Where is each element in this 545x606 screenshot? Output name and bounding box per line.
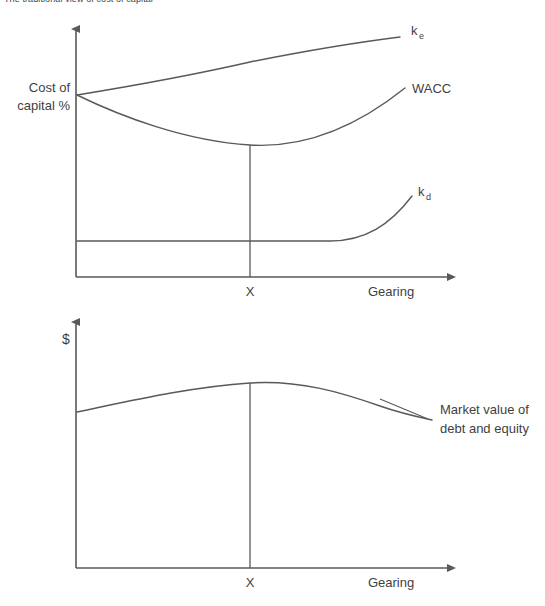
market-value-chart: $ Market value of debt and equity X Gear…: [62, 322, 529, 590]
figures-svg: Cost of capital % k e WACC k d X Gearing…: [0, 0, 545, 606]
chart2-series-label-line2: debt and equity: [440, 421, 529, 436]
chart2-y-axis-label: $: [62, 331, 70, 347]
chart1-x-axis-label: Gearing: [368, 284, 414, 299]
chart1-x-tick-label: X: [246, 284, 255, 299]
chart1-kd-label: k: [418, 184, 425, 199]
chart1-wacc-curve: [77, 88, 405, 145]
chart2-series-label-line1: Market value of: [440, 402, 529, 417]
chart2-x-tick-label: X: [246, 575, 255, 590]
cost-of-capital-chart: Cost of capital % k e WACC k d X Gearing: [17, 23, 452, 299]
chart2-market-value-curve: [77, 383, 432, 420]
chart1-kd-label-subscript: d: [426, 192, 431, 202]
page-canvas: The traditional view of cost of capital: [0, 0, 545, 606]
chart1-ke-curve: [77, 37, 400, 95]
chart1-y-axis-label-line1: Cost of: [29, 80, 71, 95]
chart2-x-axis-label: Gearing: [368, 575, 414, 590]
chart1-ke-label: k: [411, 23, 418, 38]
chart1-kd-curve: [77, 196, 412, 241]
chart1-ke-label-subscript: e: [419, 31, 424, 41]
chart1-wacc-label: WACC: [412, 81, 451, 96]
chart1-y-axis-label-line2: capital %: [17, 98, 70, 113]
